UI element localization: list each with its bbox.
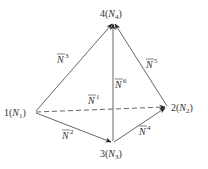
edge-label-n3: N 3 [56, 52, 69, 65]
node-label-2: 2(N2) [171, 102, 193, 115]
svg-text:N: N [138, 126, 147, 137]
node-label-3: 3(N3) [100, 148, 122, 161]
svg-text:2: 2 [70, 128, 74, 136]
svg-text:4: 4 [147, 124, 151, 132]
edge-label-n1: N 1 [87, 93, 100, 106]
vector-tetrahedron-diagram: 4(N4) 1(N1) 2(N2) 3(N3) N 3 N 5 N 6 N [0, 0, 208, 169]
edge-n5 [115, 24, 167, 106]
edge-n3 [36, 24, 112, 111]
svg-text:N: N [87, 95, 96, 106]
svg-text:N: N [56, 54, 65, 65]
svg-text:N: N [145, 59, 154, 70]
svg-text:6: 6 [123, 77, 127, 85]
edge-label-n5: N 5 [145, 57, 158, 70]
edge-label-n4: N 4 [138, 124, 151, 137]
svg-text:5: 5 [154, 57, 158, 65]
edge-label-n6: N 6 [114, 77, 127, 90]
edge-n1 [36, 107, 165, 112]
node-label-4: 4(N4) [100, 8, 122, 21]
svg-text:N: N [61, 130, 70, 141]
svg-text:N: N [114, 79, 123, 90]
svg-text:1: 1 [96, 93, 100, 101]
svg-text:3: 3 [65, 52, 69, 60]
edge-label-n2: N 2 [61, 128, 74, 141]
node-label-1: 1(N1) [4, 107, 26, 120]
edge-n2 [36, 113, 111, 142]
